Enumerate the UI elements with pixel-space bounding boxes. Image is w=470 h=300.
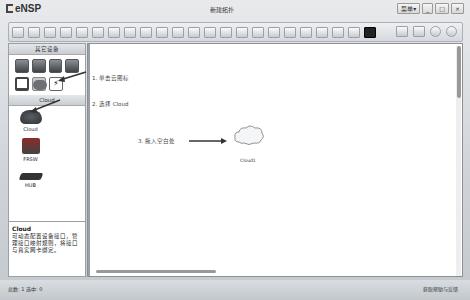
device-frsw[interactable]: FRSW xyxy=(13,138,48,162)
cli-icon[interactable] xyxy=(364,27,376,38)
topology-canvas[interactable]: 1. 单击云图标 2. 选择 Cloud 3. 拖入空白处 Cloud1 xyxy=(87,43,463,277)
delete-all-icon[interactable] xyxy=(188,27,200,38)
delete-icon[interactable] xyxy=(172,27,184,38)
device-description: Cloud 可动态配置设备接口，管理接口映射规则，将接口与真实网卡绑定。 xyxy=(9,221,85,276)
console-icon[interactable] xyxy=(396,26,408,37)
close-button[interactable]: × xyxy=(451,3,464,14)
new-topology-icon[interactable] xyxy=(12,27,24,38)
window-title: 新建拓扑 xyxy=(210,5,234,14)
topo-icon[interactable] xyxy=(332,27,344,38)
move-icon[interactable] xyxy=(156,27,168,38)
fit-icon[interactable] xyxy=(268,27,280,38)
menu-button[interactable]: 菜单▾ xyxy=(397,3,420,14)
zoom-in-icon[interactable] xyxy=(236,27,248,38)
save-as-icon[interactable] xyxy=(76,27,88,38)
app-name: eNSP xyxy=(15,3,41,14)
zoom-out-icon[interactable] xyxy=(252,27,264,38)
frsw-device-icon xyxy=(22,138,40,154)
device-header: Cloud xyxy=(9,95,85,106)
cloud-device-icon xyxy=(20,110,42,124)
category-row-2: ⚡ xyxy=(9,77,85,95)
rectangle-icon[interactable] xyxy=(220,27,232,38)
status-counts: 总数: 1 选中: 0 xyxy=(8,285,43,292)
undo-icon[interactable] xyxy=(108,27,120,38)
description-body: 可动态配置设备接口，管理接口映射规则，将接口与真实网卡绑定。 xyxy=(12,233,82,254)
category-row-1 xyxy=(9,55,85,77)
step-1: 1. 单击云图标 xyxy=(92,74,129,82)
horizontal-scroll-thumb[interactable] xyxy=(96,270,216,273)
step-3: 3. 拖入空白处 xyxy=(138,137,175,145)
vertical-scroll-thumb[interactable] xyxy=(457,46,461,98)
pc-category-icon[interactable] xyxy=(15,77,29,91)
drag-arrow-icon xyxy=(188,136,228,146)
cloud1-node-icon[interactable] xyxy=(233,124,265,146)
cloud-category-icon[interactable] xyxy=(32,77,46,91)
select-icon[interactable] xyxy=(140,27,152,38)
device-cloud[interactable]: Cloud xyxy=(13,110,48,132)
device-grid: Cloud FRSW HUB xyxy=(9,106,85,198)
toolbar-right xyxy=(396,26,457,37)
home-icon[interactable] xyxy=(413,26,425,37)
cloud1-label: Cloud1 xyxy=(240,158,256,163)
new-lab-icon[interactable] xyxy=(28,27,40,38)
help-feedback-link[interactable]: 获取帮助与反馈 xyxy=(423,285,458,292)
save-icon[interactable] xyxy=(60,27,72,38)
router-category-icon[interactable] xyxy=(15,59,29,73)
title-bar: eNSP 新建拓扑 菜单▾ _ □ × xyxy=(0,0,470,19)
maximize-button[interactable]: □ xyxy=(435,3,449,14)
redo-icon[interactable] xyxy=(124,27,136,38)
device-label: HUB xyxy=(13,182,48,188)
device-label: FRSW xyxy=(13,156,48,162)
firewall-category-icon[interactable] xyxy=(65,59,79,73)
device-list-icon[interactable] xyxy=(348,27,360,38)
print-icon[interactable] xyxy=(92,27,104,38)
category-header: 其它设备 xyxy=(9,44,85,55)
ensp-logo-icon xyxy=(6,4,13,13)
step-2: 2. 选择 Cloud xyxy=(92,100,128,108)
description-title: Cloud xyxy=(12,225,82,232)
device-label: Cloud xyxy=(13,126,48,132)
canvas-left-border xyxy=(88,44,90,276)
app-logo: eNSP xyxy=(6,3,41,14)
text-icon[interactable] xyxy=(204,27,216,38)
capture-icon[interactable] xyxy=(316,27,328,38)
settings-icon[interactable] xyxy=(430,26,441,37)
minimize-button[interactable]: _ xyxy=(422,3,433,14)
window-controls: 菜单▾ _ □ × xyxy=(397,3,464,14)
device-panel: 其它设备 ⚡ Cloud Cloud FRSW HUB xyxy=(8,43,86,277)
device-hub[interactable]: HUB xyxy=(13,168,48,188)
cloud-glyph xyxy=(33,80,47,90)
hub-device-icon xyxy=(18,173,43,180)
open-icon[interactable] xyxy=(44,27,56,38)
main-toolbar xyxy=(8,22,463,42)
start-icon[interactable] xyxy=(284,27,296,38)
stop-icon[interactable] xyxy=(300,27,312,38)
status-bar: 总数: 1 选中: 0 获取帮助与反馈 xyxy=(0,280,470,300)
ensp-window: eNSP 新建拓扑 菜单▾ _ □ × xyxy=(0,0,470,300)
help-icon[interactable] xyxy=(446,26,457,37)
switch-category-icon[interactable] xyxy=(32,59,46,73)
power-category-icon[interactable]: ⚡ xyxy=(49,77,63,91)
wlan-category-icon[interactable] xyxy=(49,59,63,73)
